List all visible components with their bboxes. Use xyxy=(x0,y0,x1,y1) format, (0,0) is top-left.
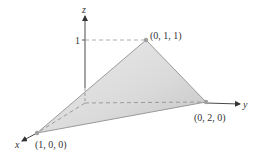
vertex-1-0-0 xyxy=(35,131,39,135)
z-axis-label: z xyxy=(81,4,86,15)
vertex-0-2-0 xyxy=(204,100,208,104)
y-axis-label: y xyxy=(242,99,248,110)
vertex-label-0-2-0: (0, 2, 0) xyxy=(194,112,226,124)
vertex-label-1-0-0: (1, 0, 0) xyxy=(35,139,67,151)
plane-triangle xyxy=(37,40,206,133)
z-tick-label: 1 xyxy=(75,35,80,46)
plane-diagram: z y x 1 (0, 1, 1) (0, 2, 0) (1, 0, 0) xyxy=(0,0,258,160)
vertex-label-0-1-1: (0, 1, 1) xyxy=(150,30,182,42)
x-axis-label: x xyxy=(14,139,20,150)
vertex-0-1-1 xyxy=(144,38,148,42)
y-axis xyxy=(206,103,240,104)
